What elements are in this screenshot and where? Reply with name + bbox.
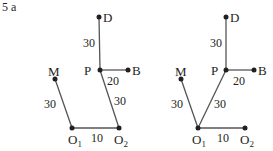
label-d: D <box>103 10 112 25</box>
label-m: M <box>175 64 187 79</box>
label-b: B <box>258 63 267 78</box>
left-nodes <box>53 15 131 131</box>
edge-m-o1 <box>55 79 72 128</box>
label-o2: O2 <box>240 132 254 149</box>
label-o2: O2 <box>114 132 128 149</box>
label-o1: O1 <box>192 132 206 149</box>
left-diagram <box>55 17 128 128</box>
node-d <box>224 15 229 20</box>
label-m: M <box>48 64 60 79</box>
network-diagrams: D P B M O1 O2 30 20 30 30 10 D P B M O1 … <box>0 0 273 151</box>
label-p: P <box>84 63 91 78</box>
node-b <box>252 68 257 73</box>
length-p-o1: 30 <box>214 97 226 111</box>
node-o2 <box>117 126 122 131</box>
node-d <box>97 15 102 20</box>
node-o2 <box>243 126 248 131</box>
node-p <box>98 68 103 73</box>
length-p-o2: 30 <box>114 94 126 108</box>
length-p-b: 20 <box>233 74 245 88</box>
label-o1: O1 <box>68 132 82 149</box>
label-d: D <box>230 10 239 25</box>
edge-m-o1 <box>181 79 198 128</box>
length-m-o1: 30 <box>44 97 56 111</box>
length-d-p: 30 <box>210 36 222 50</box>
length-p-b: 20 <box>107 74 119 88</box>
node-p <box>224 68 229 73</box>
label-b: B <box>132 63 141 78</box>
node-o1 <box>196 126 201 131</box>
edge-d-p <box>99 17 100 70</box>
node-b <box>126 68 131 73</box>
length-o1-o2: 10 <box>91 131 103 145</box>
length-d-p: 30 <box>83 36 95 50</box>
length-m-o1: 30 <box>171 97 183 111</box>
node-o1 <box>70 126 75 131</box>
length-o1-o2: 10 <box>217 131 229 145</box>
label-p: P <box>211 63 218 78</box>
